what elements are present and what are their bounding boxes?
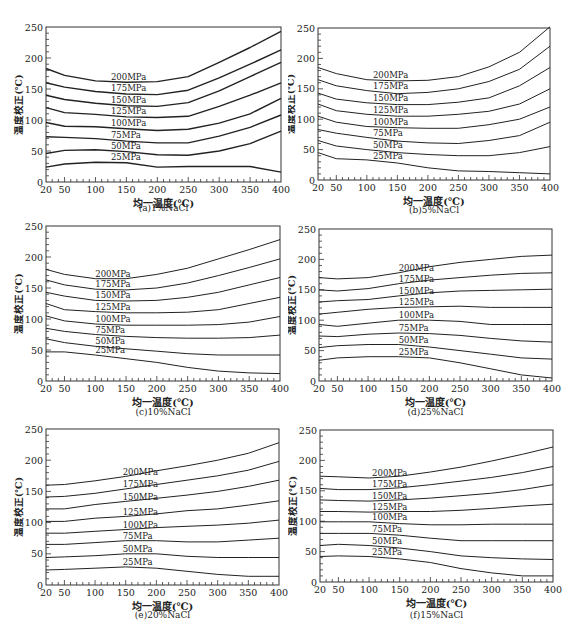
series-line-75MPa xyxy=(46,115,281,143)
series-label: 175MPa xyxy=(95,279,130,289)
series-label: 75MPa xyxy=(372,524,402,534)
series-line-100MPa xyxy=(46,520,279,533)
series-label: 100MPa xyxy=(95,314,130,324)
x-tick-label: 100 xyxy=(359,383,377,394)
x-tick-label: 300 xyxy=(483,584,501,595)
series-line-50MPa xyxy=(46,339,280,355)
chart-e-svg: 2050100150200250300350400050100150200250… xyxy=(0,425,290,642)
series-line-150MPa xyxy=(320,485,553,501)
series-label: 150MPa xyxy=(95,290,130,300)
series-label: 75MPa xyxy=(399,323,429,333)
y-tick-label: 200 xyxy=(297,53,315,64)
panel-caption: (e)20%NaCl xyxy=(135,610,190,620)
series-line-25MPa xyxy=(318,153,550,174)
series-label: 25MPa xyxy=(373,151,403,161)
y-tick-label: 100 xyxy=(25,517,43,528)
series-line-125MPa xyxy=(318,89,550,116)
y-tick-label: 150 xyxy=(25,283,43,294)
plot-frame xyxy=(46,226,280,381)
series-label: 125MPa xyxy=(123,507,158,517)
series-line-75MPa xyxy=(318,122,550,143)
chart-c-svg: 2050100150200250300350400050100150200250… xyxy=(0,213,290,428)
y-axis-label: 温度校正(℃) xyxy=(288,476,298,536)
series-line-175MPa xyxy=(319,273,552,291)
series-label: 200MPa xyxy=(372,468,407,478)
chart-panel-e: 2050100150200250300350400050100150200250… xyxy=(0,425,290,642)
series-line-125MPa xyxy=(319,306,552,314)
x-tick-label: 400 xyxy=(270,587,288,598)
plot-frame xyxy=(319,229,552,381)
series-label: 50MPa xyxy=(123,544,153,554)
series-label: 75MPa xyxy=(123,531,153,541)
x-tick-label: 100 xyxy=(360,584,378,595)
y-tick-label: 250 xyxy=(299,425,317,436)
series-label: 25MPa xyxy=(111,152,141,162)
x-tick-label: 150 xyxy=(117,587,135,598)
y-axis-label: 温度校正(℃) xyxy=(288,74,296,134)
x-tick-label: 350 xyxy=(513,584,531,595)
y-tick-label: 100 xyxy=(299,516,317,527)
x-tick-label: 200 xyxy=(421,584,439,595)
series-line-25MPa xyxy=(46,162,281,172)
y-tick-label: 250 xyxy=(297,23,315,34)
series-label: 125MPa xyxy=(399,297,434,307)
y-tick-label: 100 xyxy=(25,115,43,126)
y-tick-label: 0 xyxy=(37,376,43,387)
x-tick-label: 250 xyxy=(178,587,196,598)
x-tick-label: 350 xyxy=(241,184,259,195)
chart-f-svg: 2050100150200250300350400050100150200250… xyxy=(288,425,578,642)
x-tick-label: 400 xyxy=(544,584,562,595)
x-tick-label: 350 xyxy=(512,383,530,394)
series-line-100MPa xyxy=(46,98,281,130)
series-label: 200MPa xyxy=(399,263,434,273)
y-tick-label: 50 xyxy=(31,146,43,157)
series-label: 25MPa xyxy=(123,557,153,567)
series-label: 200MPa xyxy=(373,70,408,80)
y-tick-label: 100 xyxy=(297,114,315,125)
x-tick-label: 400 xyxy=(541,182,559,193)
panel-caption: (d)25%NaCl xyxy=(408,407,464,417)
y-tick-label: 150 xyxy=(297,83,315,94)
x-tick-label: 300 xyxy=(480,182,498,193)
x-tick-label: 200 xyxy=(147,587,165,598)
series-line-25MPa xyxy=(319,357,552,378)
series-label: 175MPa xyxy=(399,274,434,284)
series-label: 50MPa xyxy=(399,335,429,345)
series-line-125MPa xyxy=(46,83,281,118)
series-line-200MPa xyxy=(46,240,280,279)
x-axis-label: 均一温度(℃) xyxy=(406,597,467,609)
series-line-175MPa xyxy=(46,50,281,95)
series-label: 175MPa xyxy=(373,81,408,91)
chart-panel-b: 2050100150200250300350400050100150200250… xyxy=(288,0,578,219)
y-tick-label: 200 xyxy=(25,252,43,263)
y-tick-label: 150 xyxy=(299,485,317,496)
x-tick-label: 150 xyxy=(117,184,135,195)
series-line-75MPa xyxy=(46,538,279,544)
chart-panel-c: 2050100150200250300350400050100150200250… xyxy=(0,213,290,432)
chart-panel-a: 2050100150200250300350400050100150200250… xyxy=(0,0,290,219)
series-label: 175MPa xyxy=(372,479,407,489)
x-tick-label: 300 xyxy=(210,184,228,195)
y-tick-label: 50 xyxy=(303,144,315,155)
x-tick-label: 50 xyxy=(330,182,342,193)
y-tick-label: 0 xyxy=(37,177,43,188)
series-label: 150MPa xyxy=(373,93,408,103)
series-line-175MPa xyxy=(46,259,280,290)
series-line-125MPa xyxy=(46,501,279,522)
series-line-125MPa xyxy=(320,504,553,512)
series-line-150MPa xyxy=(319,289,552,302)
series-line-200MPa xyxy=(46,443,279,486)
series-label: 125MPa xyxy=(111,106,146,116)
y-tick-label: 200 xyxy=(25,455,43,466)
series-label: 50MPa xyxy=(372,536,402,546)
series-line-100MPa xyxy=(319,320,552,326)
series-label: 150MPa xyxy=(399,286,434,296)
y-tick-label: 150 xyxy=(25,486,43,497)
x-tick-label: 200 xyxy=(148,383,166,394)
x-tick-label: 250 xyxy=(449,182,467,193)
x-tick-label: 350 xyxy=(239,587,257,598)
series-label: 150MPa xyxy=(111,95,146,105)
panel-caption: (a)1%NaCl xyxy=(139,203,189,213)
series-line-175MPa xyxy=(320,467,553,490)
series-line-200MPa xyxy=(319,255,552,279)
